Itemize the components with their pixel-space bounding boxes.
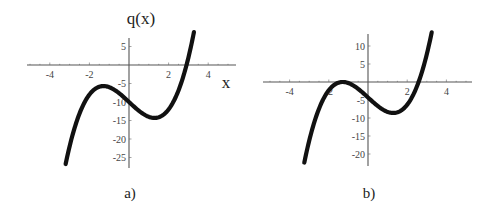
y-tick-label: -20 xyxy=(113,134,126,145)
y-axis-label: q(x) xyxy=(127,9,155,28)
x-tick-label: -4 xyxy=(285,86,293,97)
figure: -4-2245-5-10-15-20-25q(x)xa)-4-224105-5-… xyxy=(0,0,494,214)
y-tick-label: -25 xyxy=(113,152,126,163)
y-tick-label: -10 xyxy=(352,113,365,124)
function-curve xyxy=(66,32,194,164)
x-tick-label: 4 xyxy=(444,86,449,97)
x-tick-label: 2 xyxy=(405,86,410,97)
y-tick-label: -5 xyxy=(118,78,126,89)
y-tick-label: 5 xyxy=(360,59,365,70)
y-tick-label: -15 xyxy=(113,115,126,126)
panel-a: -4-2245-5-10-15-20-25q(x)xa) xyxy=(27,9,236,202)
x-tick-label: 2 xyxy=(166,69,171,80)
y-tick-label: -15 xyxy=(352,131,365,142)
y-tick-label: 5 xyxy=(121,41,126,52)
y-tick-label: -20 xyxy=(352,149,365,160)
x-tick-label: -4 xyxy=(46,69,54,80)
panel-caption: a) xyxy=(124,185,136,202)
y-tick-label: 10 xyxy=(355,41,365,52)
panel-b: -4-224105-5-10-15-20b) xyxy=(263,32,472,202)
panel-caption: b) xyxy=(363,185,376,202)
x-tick-label: -2 xyxy=(85,69,93,80)
x-tick-label: 4 xyxy=(206,69,211,80)
x-axis-label: x xyxy=(222,73,231,92)
